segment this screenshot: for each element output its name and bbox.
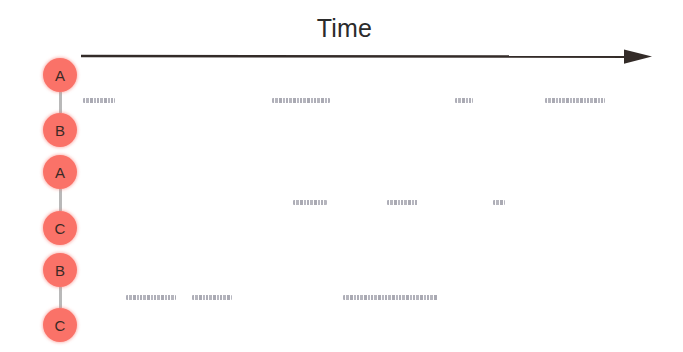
timeline-diagram: Time ABACBC	[0, 0, 683, 352]
utterance-segment-3-2[interactable]	[192, 295, 232, 300]
utterance-row-b-c	[0, 0, 683, 352]
utterance-segment-3-3[interactable]	[343, 295, 438, 300]
utterance-segment-3-1[interactable]	[126, 295, 176, 300]
